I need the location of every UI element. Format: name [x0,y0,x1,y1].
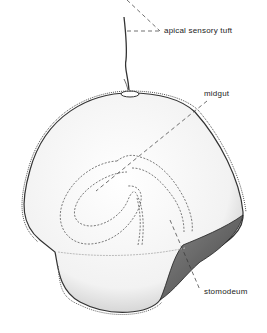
apical-tuft [124,17,129,90]
larva-body [22,91,246,315]
larva-illustration [0,0,267,333]
label-midgut: midgut [204,89,229,98]
larva-diagram: apical sensory tuft midgut stomodeum [0,0,267,333]
label-stomodeum: stomodeum [204,287,248,296]
label-apical-sensory-tuft: apical sensory tuft [164,26,232,35]
